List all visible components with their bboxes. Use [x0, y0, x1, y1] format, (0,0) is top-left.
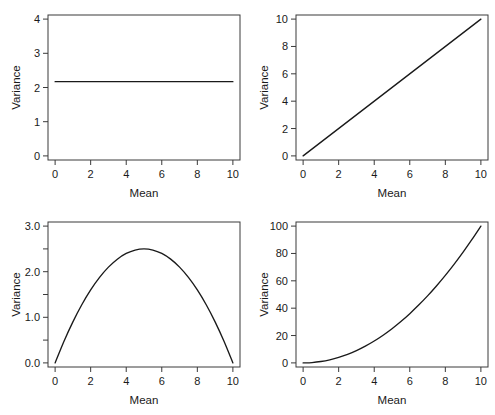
x-axis-title: Mean: [130, 394, 159, 406]
plot-top-right: 02468100246810MeanVariance: [248, 0, 495, 207]
y-tick-label: 40: [276, 302, 288, 314]
x-tick-label: 8: [442, 375, 448, 387]
y-tick-label: 0: [282, 150, 288, 162]
x-tick-label: 0: [52, 168, 58, 180]
x-axis-title: Mean: [378, 394, 407, 406]
data-curve-linear: [303, 19, 481, 156]
panel-top-right: 02468100246810MeanVariance: [248, 0, 495, 207]
y-tick-label: 4: [282, 95, 288, 107]
x-tick-label: 2: [88, 375, 94, 387]
mean-variance-figure: 012340246810MeanVariance 02468100246810M…: [0, 0, 495, 415]
x-tick-label: 10: [227, 375, 239, 387]
x-tick-label: 2: [336, 168, 342, 180]
x-tick-label: 4: [123, 375, 129, 387]
x-tick-label: 8: [442, 168, 448, 180]
x-tick-label: 0: [52, 375, 58, 387]
y-tick-label: 10: [276, 13, 288, 25]
x-tick-label: 2: [88, 168, 94, 180]
y-tick-label: 2: [282, 123, 288, 135]
x-axis-title: Mean: [130, 187, 159, 199]
plot-bottom-right: 0204060801000246810MeanVariance: [248, 207, 495, 414]
y-tick-label: 1.0: [25, 311, 40, 323]
y-tick-label: 3: [34, 47, 40, 59]
panel-bottom-left: 0.01.02.03.00246810MeanVariance: [0, 207, 247, 414]
x-tick-label: 8: [194, 168, 200, 180]
x-tick-label: 0: [300, 168, 306, 180]
y-tick-label: 60: [276, 275, 288, 287]
plot-bottom-left: 0.01.02.03.00246810MeanVariance: [0, 207, 247, 414]
y-axis-title: Variance: [258, 272, 270, 317]
plot-frame: [296, 222, 488, 367]
y-tick-label: 3.0: [25, 220, 40, 232]
y-tick-label: 1: [34, 116, 40, 128]
panel-top-left: 012340246810MeanVariance: [0, 0, 247, 207]
y-axis-title: Variance: [10, 272, 22, 317]
x-tick-label: 6: [159, 375, 165, 387]
y-tick-label: 2.0: [25, 266, 40, 278]
x-tick-label: 6: [407, 375, 413, 387]
plot-frame: [48, 222, 240, 367]
data-curve-binomial: [55, 249, 233, 363]
x-tick-label: 4: [371, 375, 377, 387]
x-tick-label: 4: [371, 168, 377, 180]
x-tick-label: 10: [475, 168, 487, 180]
y-axis-title: Variance: [258, 65, 270, 110]
y-tick-label: 0: [34, 150, 40, 162]
y-tick-label: 2: [34, 82, 40, 94]
y-tick-label: 0.0: [25, 357, 40, 369]
y-tick-label: 80: [276, 247, 288, 259]
x-tick-label: 2: [336, 375, 342, 387]
y-axis-title: Variance: [10, 65, 22, 110]
y-tick-label: 8: [282, 40, 288, 52]
y-tick-label: 100: [270, 220, 288, 232]
x-tick-label: 10: [475, 375, 487, 387]
x-tick-label: 4: [123, 168, 129, 180]
x-tick-label: 6: [159, 168, 165, 180]
y-tick-label: 6: [282, 68, 288, 80]
x-tick-label: 10: [227, 168, 239, 180]
y-tick-label: 0: [282, 357, 288, 369]
plot-top-left: 012340246810MeanVariance: [0, 0, 247, 207]
y-tick-label: 20: [276, 330, 288, 342]
x-tick-label: 8: [194, 375, 200, 387]
x-tick-label: 0: [300, 375, 306, 387]
y-tick-label: 4: [34, 13, 40, 25]
panel-bottom-right: 0204060801000246810MeanVariance: [248, 207, 495, 414]
plot-frame: [48, 15, 240, 160]
data-curve-quadratic: [303, 226, 481, 363]
x-tick-label: 6: [407, 168, 413, 180]
x-axis-title: Mean: [378, 187, 407, 199]
